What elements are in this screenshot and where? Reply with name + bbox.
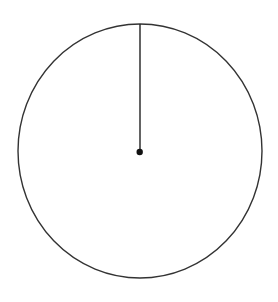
- center-point: [137, 149, 143, 155]
- circle-diagram: [0, 0, 278, 302]
